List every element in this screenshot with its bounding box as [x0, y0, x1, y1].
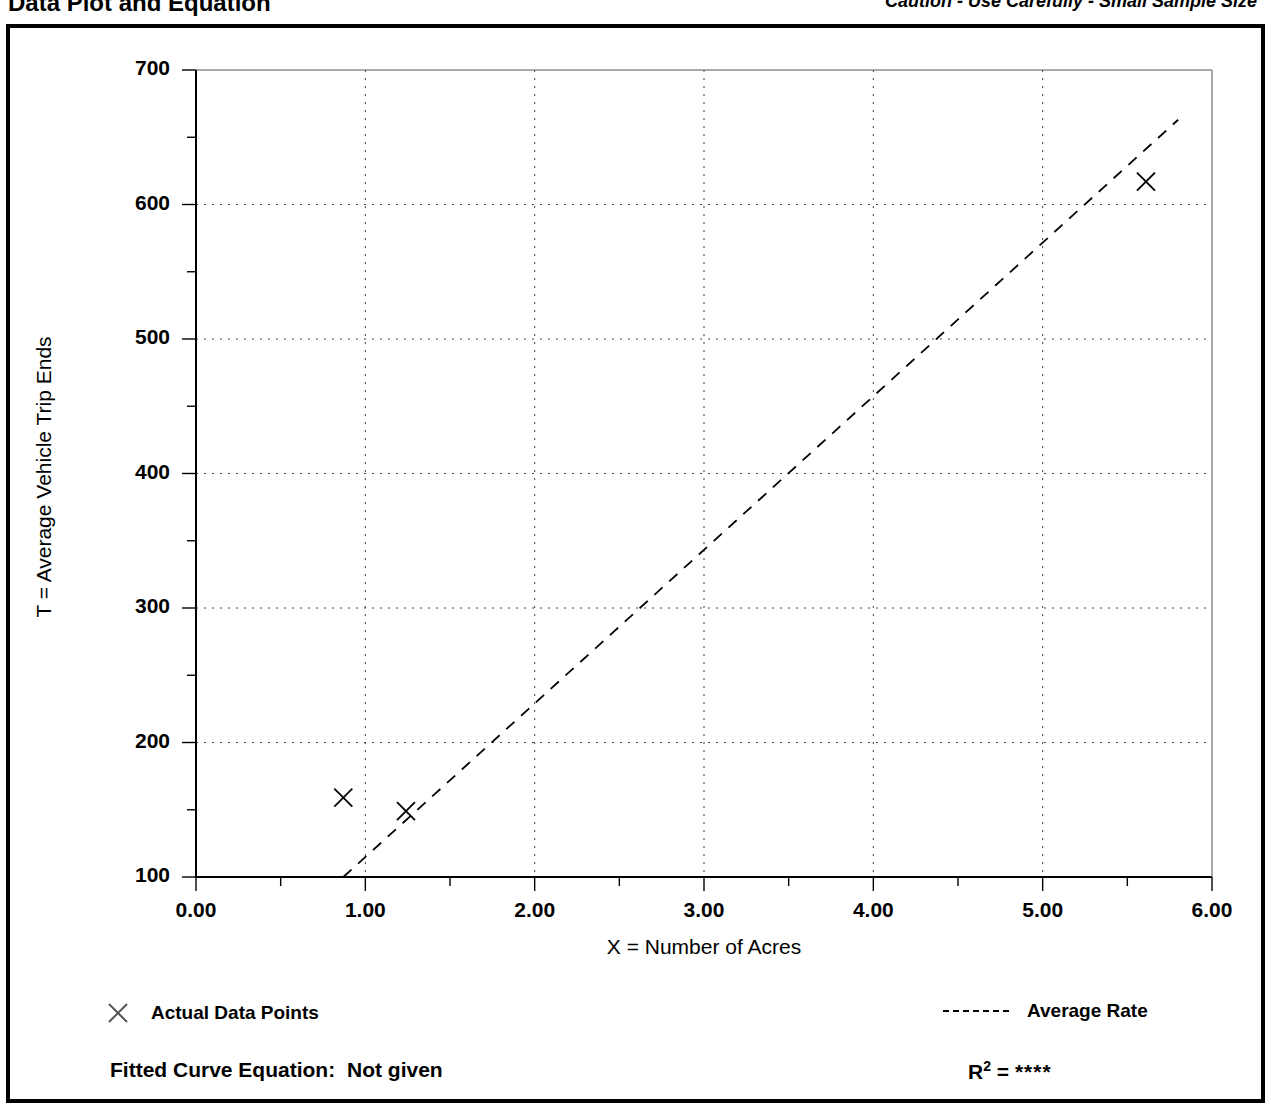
average-rate-trendline: [343, 120, 1178, 877]
dashed-line-icon: [943, 1010, 1009, 1012]
chart-canvas: T = Average Vehicle Trip Ends X = Number…: [0, 0, 1271, 1107]
equation-row: Fitted Curve Equation: Not given R2 = **…: [0, 1058, 1271, 1098]
y-axis-title: T = Average Vehicle Trip Ends: [32, 267, 56, 687]
r-squared-equals: =: [997, 1060, 1009, 1083]
legend-actual-data-points: Actual Data Points: [105, 1000, 319, 1026]
y-tick-label: 700: [90, 56, 170, 80]
x-tick-label: 1.00: [305, 898, 425, 922]
x-tick-label: 5.00: [983, 898, 1103, 922]
x-tick-label: 3.00: [644, 898, 764, 922]
data-point-markers: [334, 173, 1155, 820]
data-point-marker: [1137, 173, 1155, 191]
fitted-curve-label: Fitted Curve Equation:: [110, 1058, 335, 1081]
y-tick-label: 600: [90, 191, 170, 215]
fitted-curve-equation: Fitted Curve Equation: Not given: [110, 1058, 443, 1082]
r-squared-value: ****: [1015, 1060, 1052, 1083]
y-tick-label: 300: [90, 594, 170, 618]
r-squared-label: R: [968, 1060, 983, 1083]
x-tick-label: 0.00: [136, 898, 256, 922]
x-marker-icon: [105, 1000, 131, 1026]
grid-major-horizontal: [196, 205, 1212, 743]
r-squared-exponent: 2: [983, 1058, 991, 1074]
fitted-curve-value: Not given: [347, 1058, 443, 1081]
data-point-marker: [334, 789, 352, 807]
y-tick-label: 200: [90, 729, 170, 753]
legend-label-actual-data-points: Actual Data Points: [151, 1002, 319, 1024]
y-axis-ticks: [182, 70, 196, 877]
y-tick-label: 100: [90, 863, 170, 887]
y-tick-label: 400: [90, 460, 170, 484]
data-point-marker: [397, 802, 415, 820]
x-axis-ticks: [196, 877, 1212, 891]
x-tick-label: 4.00: [813, 898, 933, 922]
x-axis-title: X = Number of Acres: [196, 935, 1212, 959]
r-squared-block: R2 = ****: [968, 1058, 1052, 1084]
y-tick-label: 500: [90, 325, 170, 349]
x-tick-label: 2.00: [475, 898, 595, 922]
legend-average-rate: Average Rate: [943, 1000, 1148, 1022]
x-tick-label: 6.00: [1152, 898, 1271, 922]
legend-label-average-rate: Average Rate: [1027, 1000, 1148, 1022]
